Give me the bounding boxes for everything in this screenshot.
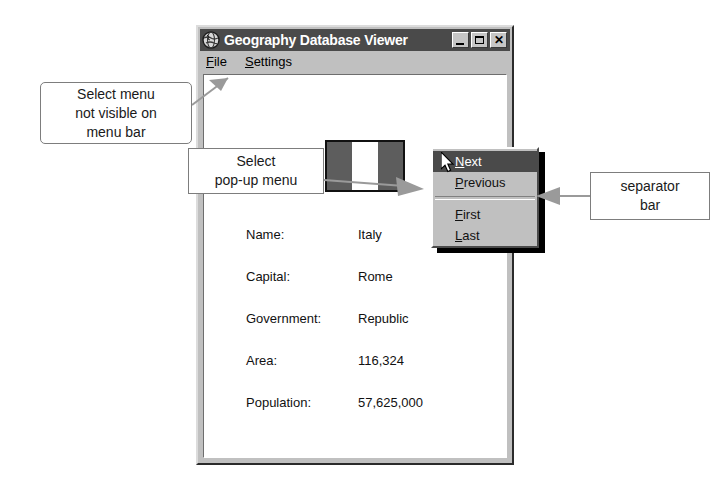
field-row-government: Government: Republic <box>246 311 496 353</box>
field-row-area: Area: 116,324 <box>246 353 496 395</box>
menu-item-file-label: ile <box>214 54 227 69</box>
field-label: Government: <box>246 311 358 326</box>
field-row-population: Population: 57,625,000 <box>246 395 496 437</box>
field-value: 116,324 <box>358 353 404 368</box>
select-popup-menu: Next Previous First Last <box>431 147 539 248</box>
flag-band-middle <box>352 142 377 190</box>
title-bar[interactable]: Geography Database Viewer ✕ <box>200 29 510 51</box>
menu-item-file[interactable]: File <box>206 54 227 69</box>
popup-menu-item-previous[interactable]: Previous <box>433 172 537 193</box>
flag-band-right <box>378 142 403 190</box>
popup-menu-separator-bar <box>435 196 535 200</box>
field-value: Rome <box>358 269 393 284</box>
globe-icon <box>202 31 220 49</box>
window-controls: ✕ <box>452 32 507 48</box>
field-row-capital: Capital: Rome <box>246 269 496 311</box>
screenshot-canvas: Geography Database Viewer ✕ File Setting… <box>0 0 722 497</box>
window-title: Geography Database Viewer <box>224 32 452 48</box>
field-label: Name: <box>246 227 358 242</box>
annotation-line: separator <box>620 177 679 196</box>
annotation-line: pop-up menu <box>215 171 298 190</box>
annotation-line: menu bar <box>86 123 145 142</box>
close-button[interactable]: ✕ <box>490 32 507 48</box>
field-value: Republic <box>358 311 409 326</box>
popup-menu-item-last[interactable]: Last <box>433 225 537 246</box>
minimize-icon <box>456 43 464 45</box>
client-area: Name: Italy Capital: Rome Government: Re… <box>203 74 507 458</box>
annotation-select-popup-menu: Select pop-up menu <box>188 148 324 194</box>
menu-item-settings[interactable]: Settings <box>245 54 292 69</box>
annotation-line: Select <box>237 152 276 171</box>
field-value: 57,625,000 <box>358 395 423 410</box>
field-label: Population: <box>246 395 358 410</box>
minimize-button[interactable] <box>452 32 469 48</box>
annotation-line: Select menu <box>77 85 155 104</box>
popup-menu-item-next-label: ext <box>464 154 481 169</box>
popup-menu-item-first[interactable]: First <box>433 204 537 225</box>
annotation-select-menu-not-visible: Select menu not visible on menu bar <box>40 82 192 144</box>
popup-menu-item-previous-label: revious <box>464 175 506 190</box>
flag-band-left <box>327 142 352 190</box>
field-label: Area: <box>246 353 358 368</box>
maximize-icon <box>475 36 484 44</box>
annotation-line: bar <box>640 196 660 215</box>
annotation-separator-bar: separator bar <box>590 172 710 220</box>
record-fields: Name: Italy Capital: Rome Government: Re… <box>246 227 496 437</box>
field-value: Italy <box>358 227 382 242</box>
field-label: Capital: <box>246 269 358 284</box>
menu-bar: File Settings <box>200 51 510 71</box>
annotation-line: not visible on <box>75 104 157 123</box>
maximize-button[interactable] <box>471 32 488 48</box>
menu-item-settings-label: ettings <box>254 54 292 69</box>
italy-flag <box>325 140 405 192</box>
close-icon: ✕ <box>494 35 504 46</box>
popup-menu-item-last-label: ast <box>462 228 479 243</box>
popup-menu-item-next[interactable]: Next <box>433 151 537 172</box>
popup-menu-item-first-label: irst <box>463 207 480 222</box>
